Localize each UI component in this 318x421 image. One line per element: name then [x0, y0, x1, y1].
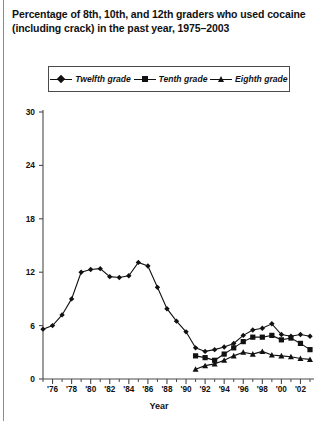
- triangle-marker: [240, 349, 246, 355]
- square-marker: [269, 333, 274, 338]
- square-marker: [279, 337, 284, 342]
- square-marker: [203, 355, 208, 360]
- series-twelfth-grade: [40, 260, 312, 354]
- square-marker: [250, 335, 255, 340]
- diamond-marker: [40, 326, 45, 331]
- diamond-marker: [155, 285, 160, 290]
- square-marker: [193, 353, 198, 358]
- square-marker: [307, 347, 312, 352]
- x-axis-title: Year: [0, 401, 318, 411]
- y-tick-label: 0: [15, 374, 35, 384]
- diamond-marker: [298, 332, 303, 337]
- diamond-marker: [69, 296, 74, 301]
- diamond-marker: [193, 345, 198, 350]
- y-tick-label: 30: [15, 107, 35, 117]
- square-marker: [298, 341, 303, 346]
- diamond-marker: [221, 344, 226, 349]
- plot-area: 0612182430 '76'78'80'82'84'86'88'90'92'9…: [0, 0, 318, 421]
- series-eighth-grade: [193, 348, 313, 371]
- series-line: [43, 262, 310, 351]
- square-marker: [222, 351, 227, 356]
- square-marker: [241, 339, 246, 344]
- diamond-marker: [88, 267, 93, 272]
- chart-canvas: [0, 0, 318, 421]
- diamond-marker: [145, 263, 150, 268]
- diamond-marker: [260, 326, 265, 331]
- square-marker: [288, 335, 293, 340]
- y-tick-label: 12: [15, 267, 35, 277]
- series-tenth-grade: [193, 333, 313, 363]
- triangle-marker: [221, 357, 227, 363]
- diamond-marker: [202, 349, 207, 354]
- square-marker: [231, 345, 236, 350]
- y-tick-label: 24: [15, 160, 35, 170]
- diamond-marker: [307, 334, 312, 339]
- y-tick-label: 18: [15, 214, 35, 224]
- diamond-marker: [78, 270, 83, 275]
- square-marker: [260, 335, 265, 340]
- x-tick-label: '02: [289, 385, 311, 394]
- diamond-marker: [250, 327, 255, 332]
- diamond-marker: [117, 275, 122, 280]
- y-tick-label: 6: [15, 321, 35, 331]
- triangle-marker: [259, 348, 265, 354]
- diamond-marker: [212, 347, 217, 352]
